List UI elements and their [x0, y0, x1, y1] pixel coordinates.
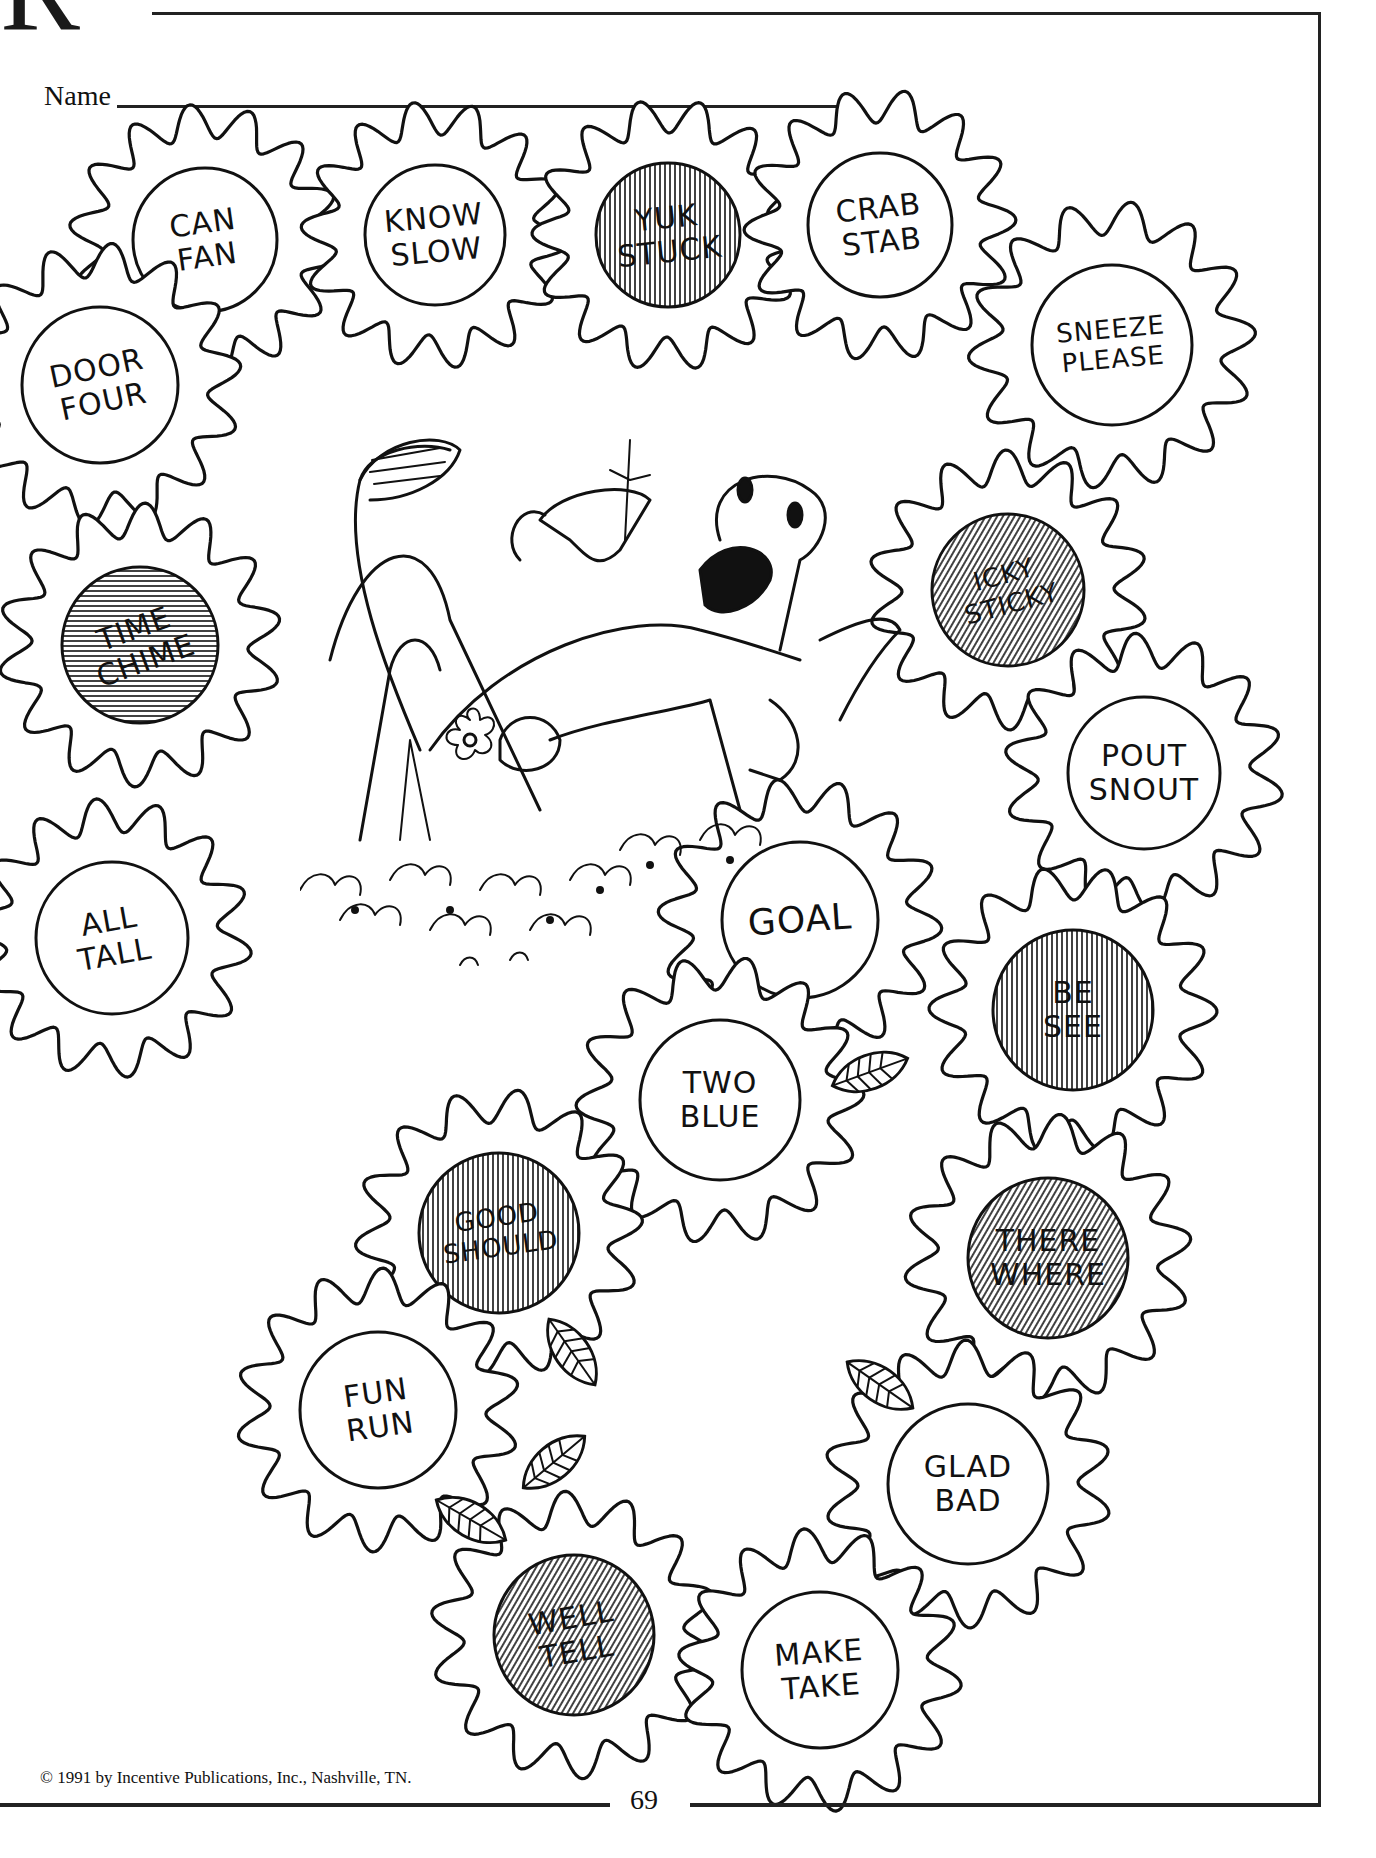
bottom-border-rule-left: [0, 1803, 610, 1807]
flower-space-make-take[interactable]: MAKETAKE: [670, 1520, 970, 1820]
flower-space-door-four[interactable]: DOORFOUR: [0, 235, 250, 535]
flower-icon: [0, 495, 290, 795]
flower-icon: [0, 235, 250, 535]
flower-icon: [0, 790, 260, 1086]
flower-space-time-chime[interactable]: TIMECHIME: [0, 495, 290, 795]
copyright-notice: © 1991 by Incentive Publications, Inc., …: [40, 1768, 411, 1788]
dinosaur-illustration: [300, 420, 940, 980]
flower-icon: [670, 1520, 970, 1820]
bottom-border-rule-right: [690, 1803, 1321, 1807]
flower-space-all-tall[interactable]: ALLTALL: [0, 790, 260, 1086]
page-number: 69: [630, 1784, 658, 1816]
